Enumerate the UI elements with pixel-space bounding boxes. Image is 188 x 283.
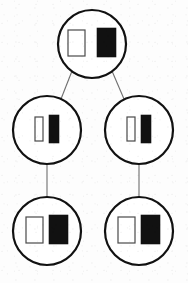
chip-mid-right-left	[127, 117, 135, 141]
edge-top-to-mid-right	[112, 71, 124, 99]
chip-bottom-right-left	[118, 217, 135, 243]
node-bottom-right-circle	[105, 197, 173, 265]
diagram-canvas	[0, 0, 188, 283]
node-mid-right-circle	[105, 96, 173, 164]
node-mid-right[interactable]	[105, 96, 173, 164]
node-mid-left-circle	[13, 96, 81, 164]
chip-top-left	[68, 30, 85, 56]
chip-top-right	[97, 28, 116, 57]
node-bottom-left[interactable]	[13, 197, 81, 265]
chip-mid-left-left	[35, 117, 43, 141]
chip-bottom-left-left	[26, 217, 43, 243]
node-bottom-right[interactable]	[105, 197, 173, 265]
nodes-layer	[13, 10, 173, 265]
node-top[interactable]	[58, 10, 126, 78]
node-mid-left[interactable]	[13, 96, 81, 164]
node-bottom-left-circle	[13, 197, 81, 265]
chip-mid-right-right	[141, 115, 151, 143]
chip-mid-left-right	[49, 115, 59, 143]
edge-top-to-mid-left	[61, 71, 72, 99]
chip-bottom-left-right	[49, 215, 68, 244]
tree-diagram	[0, 0, 188, 283]
chip-bottom-right-right	[141, 215, 160, 244]
